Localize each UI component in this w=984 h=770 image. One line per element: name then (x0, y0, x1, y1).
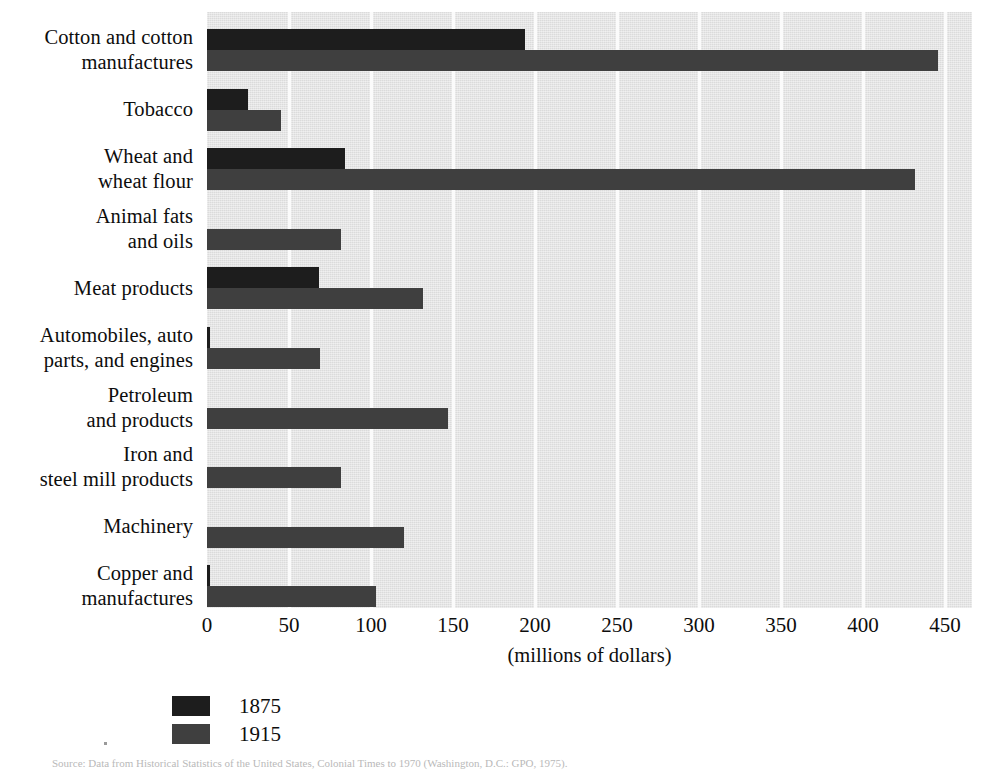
legend-item-1915: 1915 (172, 720, 281, 748)
bar-1915-row-6 (207, 408, 448, 429)
legend-label-1915: 1915 (239, 724, 281, 745)
category-label-line: manufactures (0, 586, 193, 611)
gridline-200 (534, 12, 537, 608)
legend-swatch-1875 (172, 696, 210, 716)
x-tick-label-300: 300 (664, 612, 734, 638)
bar-1875-row-5 (207, 327, 210, 348)
category-label: Meat products (0, 276, 193, 301)
gridline-300 (698, 12, 701, 608)
category-label-line: and oils (0, 229, 193, 254)
legend: 18751915 (172, 692, 281, 748)
bar-1915-row-2 (207, 169, 915, 190)
source-note: Source: Data from Historical Statistics … (52, 757, 952, 770)
bar-1875-row-4 (207, 267, 319, 288)
category-label: Animal fatsand oils (0, 204, 193, 254)
category-label-line: Animal fats (0, 204, 193, 229)
bar-1915-row-5 (207, 348, 320, 369)
gridline-250 (616, 12, 619, 608)
category-axis-labels: Cotton and cottonmanufacturesTobaccoWhea… (0, 12, 200, 608)
stray-speck (104, 742, 107, 745)
bar-1915-row-8 (207, 527, 404, 548)
category-label: Automobiles, autoparts, and engines (0, 323, 193, 373)
gridline-400 (862, 12, 865, 608)
bar-1875-row-2 (207, 148, 345, 169)
category-label-line: wheat flour (0, 169, 193, 194)
category-label-line: Copper and (0, 561, 193, 586)
category-label-line: manufactures (0, 50, 193, 75)
bar-1915-row-4 (207, 288, 423, 309)
x-tick-label-200: 200 (500, 612, 570, 638)
bar-1915-row-1 (207, 110, 281, 131)
category-label-line: Cotton and cotton (0, 25, 193, 50)
category-label: Cotton and cottonmanufactures (0, 25, 193, 75)
category-label: Copper andmanufactures (0, 561, 193, 611)
gridline-450 (944, 12, 947, 608)
gridline-50 (288, 12, 291, 608)
legend-label-1875: 1875 (239, 696, 281, 717)
bar-1875-row-1 (207, 89, 248, 110)
gridline-150 (452, 12, 455, 608)
x-tick-label-100: 100 (336, 612, 406, 638)
category-label-line: Wheat and (0, 144, 193, 169)
x-axis-title: (millions of dollars) (207, 644, 972, 667)
bar-1915-row-0 (207, 50, 938, 71)
category-label-line: Tobacco (0, 97, 193, 122)
category-label-line: parts, and engines (0, 348, 193, 373)
category-label-line: Machinery (0, 514, 193, 539)
x-axis-ticks: 050100150200250300350400450 (207, 612, 972, 642)
x-tick-label-50: 50 (254, 612, 324, 638)
category-label: Iron andsteel mill products (0, 442, 193, 492)
category-label: Wheat andwheat flour (0, 144, 193, 194)
gridline-100 (370, 12, 373, 608)
x-tick-label-450: 450 (910, 612, 980, 638)
category-label-line: Automobiles, auto (0, 323, 193, 348)
x-tick-label-250: 250 (582, 612, 652, 638)
bar-1915-row-7 (207, 467, 341, 488)
bar-1875-row-0 (207, 29, 525, 50)
x-tick-label-0: 0 (172, 612, 242, 638)
category-label: Petroleumand products (0, 383, 193, 433)
category-label-line: Petroleum (0, 383, 193, 408)
category-label-line: steel mill products (0, 467, 193, 492)
category-label: Tobacco (0, 97, 193, 122)
bar-1915-row-9 (207, 586, 376, 607)
plot-texture (207, 12, 972, 608)
x-tick-label-400: 400 (828, 612, 898, 638)
legend-swatch-1915 (172, 724, 210, 744)
category-label: Machinery (0, 514, 193, 539)
x-tick-label-150: 150 (418, 612, 488, 638)
category-label-line: Meat products (0, 276, 193, 301)
legend-item-1875: 1875 (172, 692, 281, 720)
category-label-line: Iron and (0, 442, 193, 467)
plot-area (207, 12, 972, 608)
bar-1915-row-3 (207, 229, 341, 250)
gridline-350 (780, 12, 783, 608)
x-tick-label-350: 350 (746, 612, 816, 638)
bar-1875-row-9 (207, 565, 210, 586)
category-label-line: and products (0, 408, 193, 433)
